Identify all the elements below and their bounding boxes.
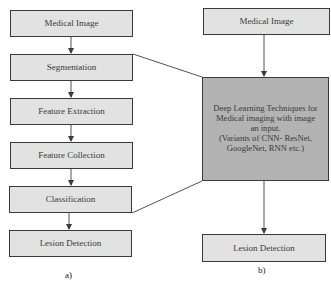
- step-label: Lesion Detection: [233, 243, 295, 253]
- step-label: Lesion Detection: [40, 238, 102, 248]
- step-medical-image-b: Medical Image: [203, 8, 330, 35]
- deep-learning-block: Deep Learning Techniques for Medical ima…: [202, 77, 329, 181]
- step-label: Feature Collection: [38, 150, 105, 160]
- caption-b: b): [258, 265, 266, 275]
- step-classification: Classification: [9, 186, 132, 213]
- deep-learning-text: Deep Learning Techniques for Medical ima…: [213, 104, 317, 153]
- step-lesion-detection-a: Lesion Detection: [9, 230, 132, 257]
- step-medical-image-a: Medical Image: [10, 10, 133, 37]
- step-label: Segmentation: [47, 62, 97, 72]
- step-label: Medical Image: [239, 16, 293, 26]
- step-segmentation: Segmentation: [10, 54, 133, 81]
- bracket-line-bottom: [132, 181, 202, 213]
- step-label: Medical Image: [44, 18, 98, 28]
- step-lesion-detection-b: Lesion Detection: [202, 234, 326, 262]
- dl-text-line: GoogleNet, RNN etc.): [213, 144, 317, 154]
- step-label: Classification: [46, 194, 96, 204]
- step-feature-extraction: Feature Extraction: [10, 98, 133, 125]
- bracket-line-top: [133, 54, 202, 77]
- caption-a: a): [65, 270, 72, 280]
- step-feature-collection: Feature Collection: [10, 142, 133, 169]
- step-label: Feature Extraction: [38, 106, 105, 116]
